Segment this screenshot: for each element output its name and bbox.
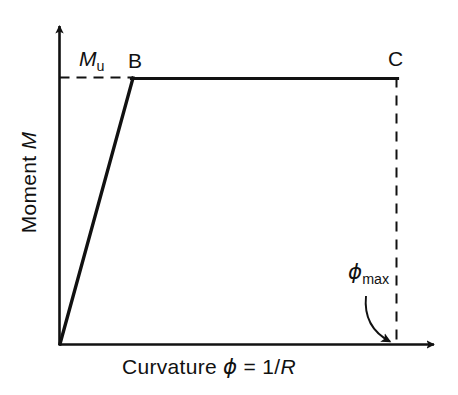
phimax-subscript: max <box>362 271 389 287</box>
moment-curvature-figure: Mu B C ϕmax Curvature ϕ = 1/R Moment M <box>0 0 458 395</box>
point-c-label: C <box>388 48 403 69</box>
mu-label: Mu <box>79 48 104 73</box>
y-axis-label-prefix: Moment <box>17 150 40 234</box>
x-axis-label-suffix: = 1/ <box>237 355 280 378</box>
phimax-base: ϕ <box>348 259 362 284</box>
phimax-label: ϕmax <box>348 261 389 286</box>
y-axis-label-moment: M <box>17 132 40 150</box>
y-axis-label: Moment M <box>18 113 39 253</box>
mu-subscript: u <box>97 58 105 74</box>
phimax-callout-arrow <box>366 296 390 342</box>
x-axis-label: Curvature ϕ = 1/R <box>122 356 296 377</box>
point-b-label: B <box>128 50 142 71</box>
x-axis-label-prefix: Curvature <box>122 355 223 378</box>
x-axis-label-radius: R <box>280 355 295 378</box>
elastic-branch <box>60 78 133 344</box>
mu-base: M <box>79 47 97 70</box>
x-axis-label-phi: ϕ <box>223 354 237 379</box>
